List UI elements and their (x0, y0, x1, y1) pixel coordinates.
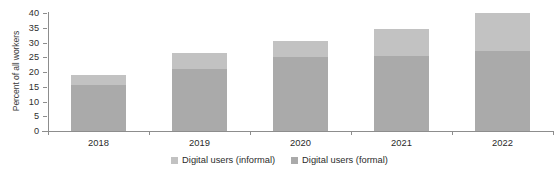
y-axis-tick-label: 25 (0, 51, 39, 63)
bar-segment-formal (273, 57, 328, 131)
bar-segment-formal (172, 69, 227, 131)
legend-label: Digital users (informal) (182, 155, 275, 165)
x-axis-tick (48, 131, 49, 135)
bar-segment-informal (374, 29, 429, 56)
y-axis-tick (43, 43, 47, 44)
x-axis-label-2022: 2022 (458, 137, 548, 148)
bar-segment-informal (172, 53, 227, 69)
x-axis-label-2020: 2020 (256, 137, 346, 148)
legend-item: Digital users (informal) (171, 155, 275, 165)
y-axis-tick-label: 0 (0, 125, 39, 137)
x-axis-tick (351, 131, 352, 135)
bar-segment-informal (71, 75, 126, 85)
legend-item: Digital users (formal) (291, 155, 388, 165)
bar-2022 (475, 13, 530, 131)
y-axis-tick (43, 131, 47, 132)
legend-swatch-icon (171, 157, 178, 164)
y-axis-tick (43, 102, 47, 103)
x-axis-tick (452, 131, 453, 135)
bar-segment-formal (475, 51, 530, 131)
stacked-bar-chart: Percent of all workers 0510152025303540 … (0, 0, 559, 175)
x-axis-label-2019: 2019 (155, 137, 245, 148)
y-axis-tick-label: 5 (0, 110, 39, 122)
y-axis-tick (43, 116, 47, 117)
y-axis-tick (43, 72, 47, 73)
x-axis-label-2021: 2021 (357, 137, 447, 148)
bar-2020 (273, 41, 328, 131)
y-axis-tick (43, 57, 47, 58)
bar-2019 (172, 53, 227, 131)
chart-legend: Digital users (informal)Digital users (f… (0, 155, 559, 165)
bar-segment-informal (475, 13, 530, 51)
y-axis-tick (43, 87, 47, 88)
bar-segment-formal (374, 56, 429, 131)
y-axis-tick-label: 15 (0, 81, 39, 93)
y-axis-tick-label: 30 (0, 37, 39, 49)
y-axis-tick (43, 28, 47, 29)
x-axis-line (42, 131, 554, 132)
y-axis-tick (43, 13, 47, 14)
x-axis-tick (553, 131, 554, 135)
bar-2021 (374, 29, 429, 131)
legend-swatch-icon (291, 157, 298, 164)
x-axis-tick (250, 131, 251, 135)
bar-segment-informal (273, 41, 328, 57)
legend-label: Digital users (formal) (302, 155, 388, 165)
bar-2018 (71, 75, 126, 131)
plot-area (48, 13, 553, 131)
bar-segment-formal (71, 85, 126, 131)
y-axis-tick-label: 35 (0, 22, 39, 34)
x-axis-tick (149, 131, 150, 135)
y-axis-tick-label: 20 (0, 66, 39, 78)
y-axis-tick-label: 10 (0, 96, 39, 108)
x-axis-label-2018: 2018 (54, 137, 144, 148)
y-axis-tick-label: 40 (0, 7, 39, 19)
